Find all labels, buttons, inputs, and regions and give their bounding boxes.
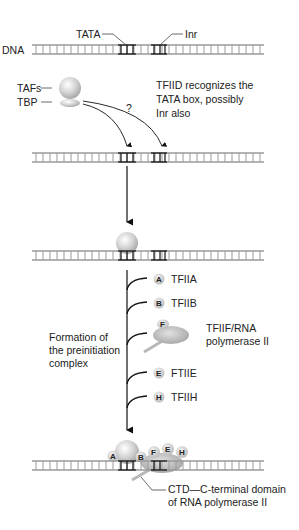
tfiia-label: TFIIA [171, 273, 197, 285]
formation-label-line-3: complex [49, 357, 89, 369]
factor-tfiib: B TFIIB [154, 297, 197, 309]
tfiid-complex: TAFs TBP ? TFIID recognizes the TATA box… [17, 77, 254, 146]
tfiih-label: TFIIH [171, 391, 197, 403]
factor-tfiif-pol-ii: F TFIIF/RNA polymerase II [144, 320, 269, 353]
svg-text:H: H [156, 393, 162, 402]
dna-row-3 [32, 232, 264, 260]
tfiid-note-line-3: Inr also [156, 107, 191, 119]
formation-label-line-1: Formation of [49, 331, 108, 343]
preinitiation-complex: A B F E H CTD—C-terminal domain of RNA p… [32, 440, 286, 508]
tfiid-note-line-2: TATA box, possibly [156, 93, 244, 105]
dna-row-2 [32, 153, 264, 162]
svg-text:A: A [156, 275, 162, 284]
inr-label: Inr [185, 28, 198, 40]
formation-label-line-2: the preinitiation [49, 344, 120, 356]
dna-label: DNA [2, 44, 24, 56]
dna-row-1: DNA TATA Inr [2, 28, 264, 56]
svg-text:E: E [165, 445, 171, 454]
svg-text:H: H [179, 448, 185, 457]
svg-text:A: A [110, 452, 116, 461]
tfiid-note-line-1: TFIID recognizes the [156, 79, 254, 91]
tafs-label: TAFs [17, 82, 41, 94]
ctd-label-line-2: of RNA polymerase II [168, 496, 267, 508]
factor-tfiia: A TFIIA [154, 273, 197, 285]
tafs-sphere [59, 77, 81, 99]
factor-tfiih: H TFIIH [154, 391, 198, 403]
svg-text:F: F [151, 448, 156, 457]
preinitiation-complex-diagram: DNA TATA Inr TAFs TBP ? TFIID recognizes… [0, 0, 299, 530]
svg-text:E: E [156, 369, 162, 378]
tfiif-label-line-2: polymerase II [206, 335, 269, 347]
tfiif-label-line-1: TFIIF/RNA [206, 322, 256, 334]
tfiib-label: TFIIB [171, 297, 197, 309]
factor-tfiie: E FTIIE [154, 367, 197, 379]
ctd-label-line-1: CTD—C-terminal domain [168, 483, 286, 495]
tata-box [118, 45, 136, 54]
tbp-label: TBP [17, 96, 37, 108]
question-mark: ? [126, 102, 132, 114]
assembly-pathway: A TFIIA B TFIIB F TFIIF/RNA polymerase I… [49, 270, 269, 430]
tbp-saddle [60, 99, 80, 107]
svg-text:F: F [160, 320, 165, 329]
svg-text:B: B [156, 299, 162, 308]
tfiie-label: FTIIE [171, 367, 197, 379]
tata-label: TATA [76, 28, 101, 40]
